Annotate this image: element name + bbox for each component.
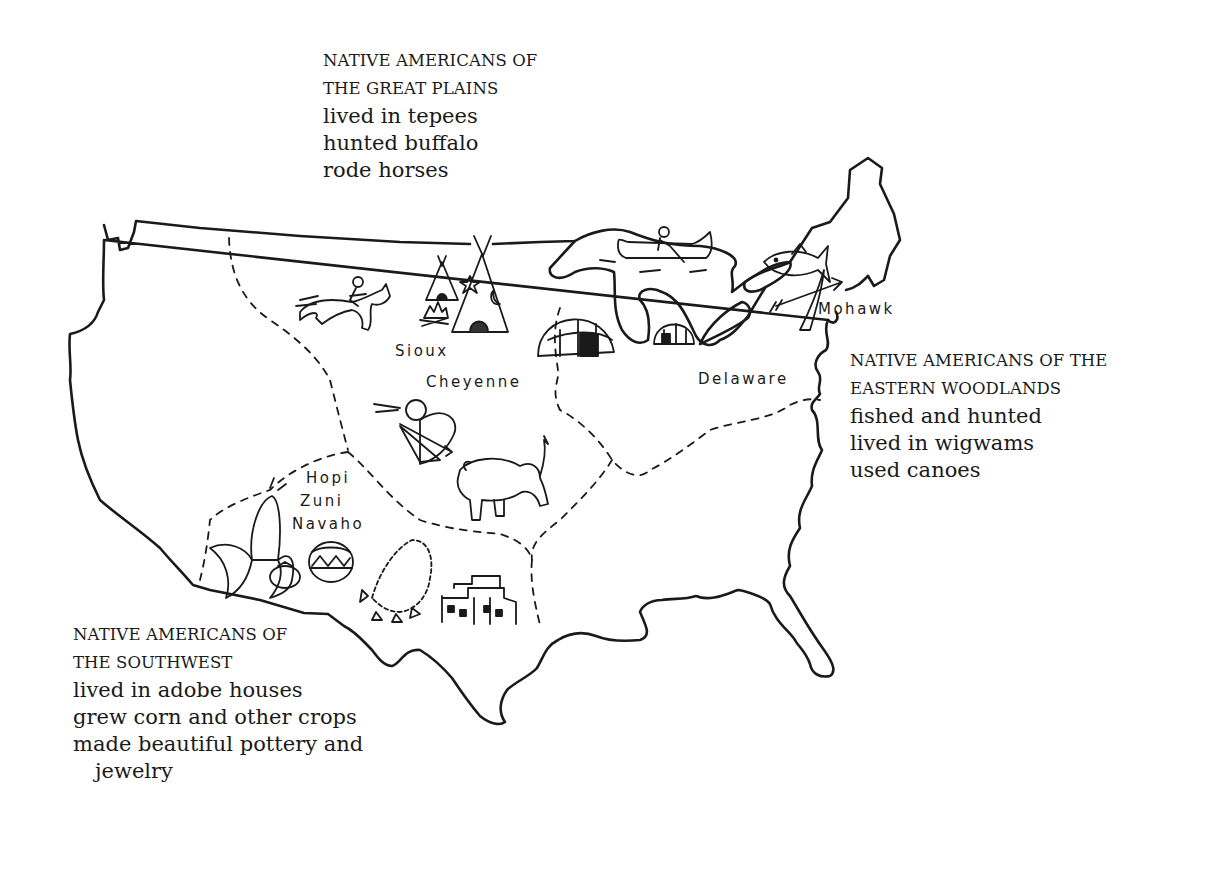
- great-plains-trait: rode horses: [323, 157, 537, 184]
- eastern-woodlands-trait: fished and hunted: [850, 403, 1107, 430]
- eastern-woodlands-heading-line2: EASTERN WOODLANDS: [850, 375, 1107, 403]
- southwest-trait: jewelry: [73, 758, 363, 785]
- eastern-woodlands-trait: used canoes: [850, 457, 1107, 484]
- southwest-caption: NATIVE AMERICANS OF THE SOUTHWEST lived …: [73, 621, 363, 785]
- eastern-woodlands-caption: NATIVE AMERICANS OF THE EASTERN WOODLAND…: [850, 347, 1107, 484]
- tribe-label-navaho: Navaho: [292, 515, 364, 533]
- archer-icon: [374, 400, 455, 464]
- campfire-icon: [420, 302, 448, 326]
- southwest-heading-line1: NATIVE AMERICANS OF: [73, 621, 363, 649]
- southwest-trait: made beautiful pottery and: [73, 731, 363, 758]
- southwest-east-boundary: [348, 452, 540, 625]
- tribe-label-mohawk: Mohawk: [818, 300, 895, 318]
- great-plains-heading-line2: THE GREAT PLAINS: [323, 75, 537, 103]
- tribe-label-zuni: Zuni: [300, 492, 343, 510]
- plains-west-boundary: [229, 238, 348, 450]
- great-plains-heading-line1: NATIVE AMERICANS OF: [323, 47, 537, 75]
- eastern-woodlands-trait: lived in wigwams: [850, 430, 1107, 457]
- pottery-icon: [309, 542, 353, 582]
- adobe-pueblo-icon: [442, 576, 516, 624]
- great-plains-trait: hunted buffalo: [323, 130, 537, 157]
- southwest-trait: lived in adobe houses: [73, 677, 363, 704]
- necklace-icon: [360, 540, 431, 622]
- corn-icon: [210, 478, 293, 598]
- tomato-icon: [270, 562, 300, 588]
- great-plains-caption: NATIVE AMERICANS OF THE GREAT PLAINS liv…: [323, 47, 537, 184]
- southwest-heading-line2: THE SOUTHWEST: [73, 649, 363, 677]
- wigwam-small-icon: [654, 324, 694, 344]
- tribe-label-sioux: Sioux: [395, 342, 449, 360]
- great-plains-trait: lived in tepees: [323, 103, 537, 130]
- canoe-paddler-icon: [600, 227, 712, 272]
- tribe-label-delaware: Delaware: [698, 370, 789, 388]
- tribe-label-cheyenne: Cheyenne: [426, 373, 522, 391]
- eastern-woodlands-heading-line1: NATIVE AMERICANS OF THE: [850, 347, 1107, 375]
- woodlands-south-boundary: [532, 460, 612, 560]
- buffalo-icon: [458, 436, 548, 520]
- wigwam-large-icon: [538, 319, 614, 356]
- southwest-trait: grew corn and other crops: [73, 704, 363, 731]
- horse-rider-icon: [296, 277, 390, 330]
- tribe-label-hopi: Hopi: [306, 469, 350, 487]
